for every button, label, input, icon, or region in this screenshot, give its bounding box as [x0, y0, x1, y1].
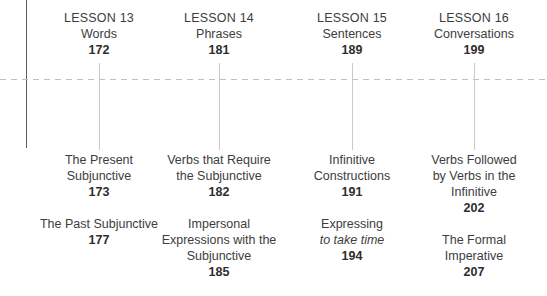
lesson-topic-14: Phrases [159, 26, 279, 42]
lesson-header-16[interactable]: LESSON 16 Conversations 199 [414, 10, 534, 58]
connector-line-lesson-15 [352, 63, 353, 150]
entry-13-1-page: 173 [39, 184, 159, 200]
lesson-header-15[interactable]: LESSON 15 Sentences 189 [292, 10, 412, 58]
connector-line-lesson-13 [99, 63, 100, 150]
lesson-topic-15: Sentences [292, 26, 412, 42]
entry-15-2-line1: Expressing [292, 216, 412, 232]
entry-15-2-italic-text: to take time [320, 233, 385, 247]
entry-15-1-line1: Infinitive [292, 152, 412, 168]
dashed-divider-line [0, 79, 547, 80]
entry-15-1-line2: Constructions [292, 168, 412, 184]
entry-14-2-line1: Impersonal [152, 216, 286, 232]
entry-16-1-page: 202 [414, 200, 534, 216]
entry-15-2-page: 194 [292, 248, 412, 264]
lesson-header-13[interactable]: LESSON 13 Words 172 [39, 10, 159, 58]
lesson-page-16: 199 [414, 42, 534, 58]
entry-14-1[interactable]: Verbs that Require the Subjunctive 182 [152, 152, 286, 200]
entry-16-2[interactable]: The Formal Imperative 207 [414, 232, 534, 280]
lesson-label-13: LESSON 13 [39, 10, 159, 26]
lesson-topic-13: Words [39, 26, 159, 42]
lesson-header-14[interactable]: LESSON 14 Phrases 181 [159, 10, 279, 58]
connector-line-lesson-14 [219, 63, 220, 150]
entry-14-1-line1: Verbs that Require [152, 152, 286, 168]
entry-16-2-page: 207 [414, 264, 534, 280]
lesson-label-14: LESSON 14 [159, 10, 279, 26]
lesson-topic-16: Conversations [414, 26, 534, 42]
lesson-timeline-diagram: LESSON 13 Words 172 The Present Subjunct… [0, 0, 547, 296]
entry-14-2-line2: Expressions with the [152, 232, 286, 248]
entry-16-1-line2: by Verbs in the [414, 168, 534, 184]
entry-14-1-line2: the Subjunctive [152, 168, 286, 184]
entry-16-1-line1: Verbs Followed [414, 152, 534, 168]
connector-line-lesson-16 [474, 63, 475, 150]
entry-16-1[interactable]: Verbs Followed by Verbs in the Infinitiv… [414, 152, 534, 216]
entry-15-1-page: 191 [292, 184, 412, 200]
entry-14-1-page: 182 [152, 184, 286, 200]
lesson-page-14: 181 [159, 42, 279, 58]
lesson-label-16: LESSON 16 [414, 10, 534, 26]
lesson-page-15: 189 [292, 42, 412, 58]
timeline-spine [26, 0, 27, 148]
entry-15-1[interactable]: Infinitive Constructions 191 [292, 152, 412, 200]
entry-16-1-line3: Infinitive [414, 184, 534, 200]
lesson-page-13: 172 [39, 42, 159, 58]
entry-16-2-line2: Imperative [414, 248, 534, 264]
entry-14-2[interactable]: Impersonal Expressions with the Subjunct… [152, 216, 286, 280]
entry-15-2[interactable]: Expressing to take time 194 [292, 216, 412, 264]
lesson-label-15: LESSON 15 [292, 10, 412, 26]
entry-13-1-line2: Subjunctive [39, 168, 159, 184]
entry-15-2-italic: to take time [292, 232, 412, 248]
entry-13-1[interactable]: The Present Subjunctive 173 [39, 152, 159, 200]
entry-13-1-line1: The Present [39, 152, 159, 168]
entry-14-2-page: 185 [152, 264, 286, 280]
entry-14-2-line3: Subjunctive [152, 248, 286, 264]
entry-16-2-line1: The Formal [414, 232, 534, 248]
